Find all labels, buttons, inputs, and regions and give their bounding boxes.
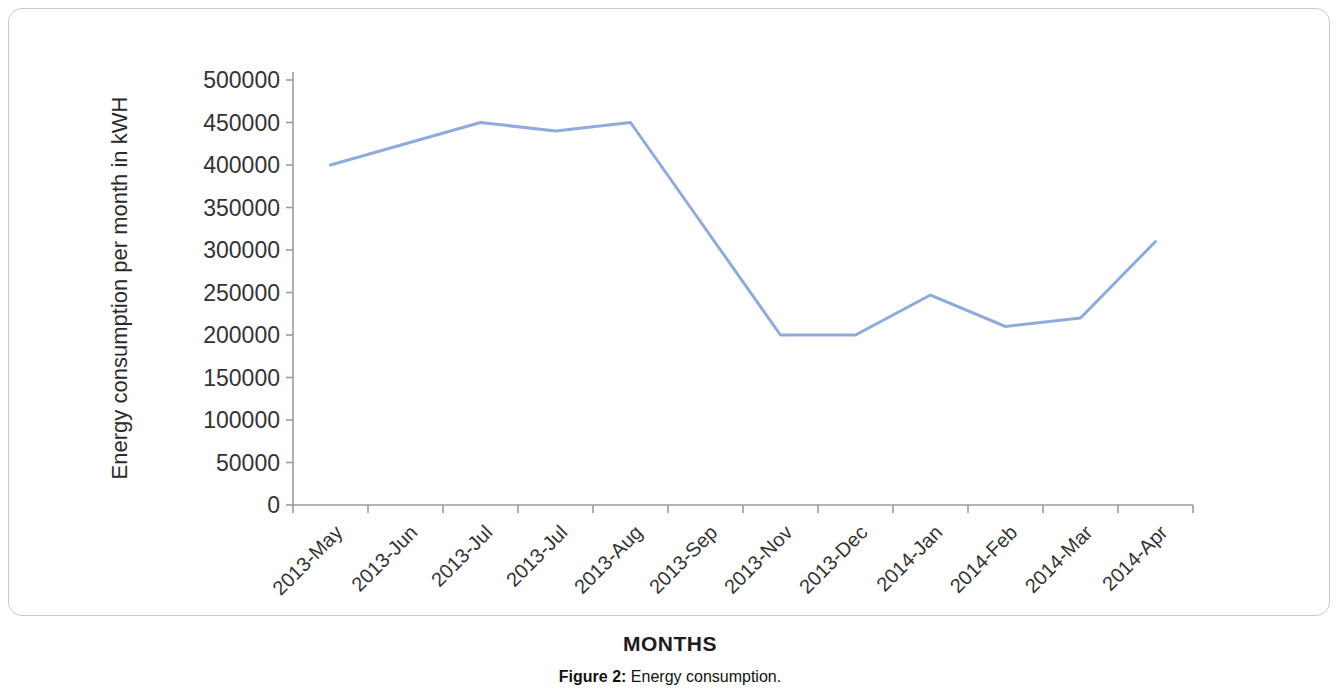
axis-ticks xyxy=(286,80,1193,513)
x-axis-title: MONTHS xyxy=(0,632,1340,656)
plot-svg xyxy=(0,0,1340,699)
line-chart: Energy consumption per month in kWH 0500… xyxy=(0,0,1340,699)
figure-caption-label: Figure 2: xyxy=(559,668,627,685)
data-series-line xyxy=(331,123,1156,336)
figure-caption: Figure 2: Energy consumption. xyxy=(0,668,1340,686)
figure-caption-text: Energy consumption. xyxy=(626,668,781,685)
figure-container: Energy consumption per month in kWH 0500… xyxy=(0,0,1340,699)
